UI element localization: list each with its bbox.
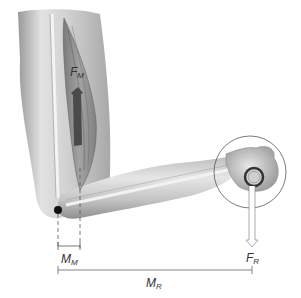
label-resistance-force: FR [246,252,259,266]
label-muscle-moment-arm: MM [61,253,78,267]
pivot-point [54,206,62,214]
arm-lever-diagram: FM FR MM MR [0,0,301,298]
resistance-force-arrow [246,186,258,247]
label-muscle-force: FM [70,66,84,80]
label-resistance-moment-arm: MR [146,277,162,291]
